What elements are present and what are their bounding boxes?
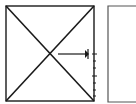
arrow — [58, 49, 89, 59]
diagram-canvas — [0, 0, 136, 104]
partial-box — [108, 6, 136, 102]
partial-box-outline — [108, 6, 136, 102]
